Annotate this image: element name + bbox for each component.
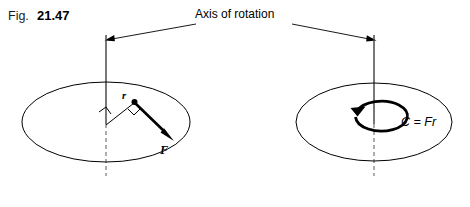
axis-of-rotation-label: Axis of rotation xyxy=(195,7,274,21)
circular-arrow-icon xyxy=(356,101,408,131)
right-angle-mark-force xyxy=(128,108,141,115)
left-diagram-group: r F xyxy=(22,35,190,176)
force-vector-line xyxy=(135,103,166,133)
figure-container: Fig. 21.47 Axis of rotation xyxy=(0,0,470,207)
physics-figure-canvas: Fig. 21.47 Axis of rotation xyxy=(0,0,470,207)
radius-label: r xyxy=(122,90,127,101)
figure-caption-number: 21.47 xyxy=(37,8,70,23)
couple-equation-label: C = Fr xyxy=(401,115,437,129)
force-arrowhead xyxy=(161,128,175,141)
leader-line-right xyxy=(292,24,377,41)
leader-arrowhead-right xyxy=(366,35,376,41)
radius-line xyxy=(106,103,134,125)
right-diagram-group: C = Fr xyxy=(296,35,452,176)
force-label: F xyxy=(159,143,169,157)
leader-line-left xyxy=(105,24,197,41)
right-angle-mark-axis xyxy=(99,107,111,114)
figure-caption-prefix: Fig. xyxy=(8,9,29,23)
circular-arrowhead xyxy=(351,107,366,117)
